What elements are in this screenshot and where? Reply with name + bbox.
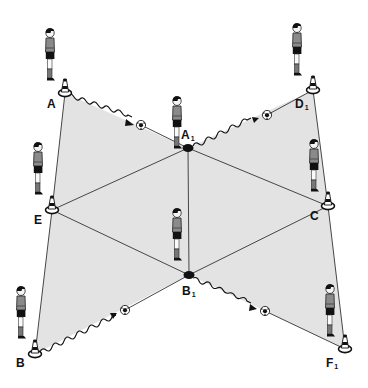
station-label-B: B: [16, 357, 25, 369]
player-icon-D1: [293, 23, 303, 75]
drill-diagram: [0, 0, 368, 388]
marker-dot-A1: [183, 144, 194, 152]
ball-icon: [136, 120, 145, 129]
ball-icon: [262, 110, 271, 119]
station-label-A1: A1: [181, 129, 195, 143]
ball-icon: [260, 306, 269, 315]
cone-icon-A: [59, 79, 72, 97]
station-label-F1: F1: [326, 357, 338, 371]
station-label-D1: D1: [295, 98, 309, 112]
player-icon-E: [34, 142, 44, 194]
marker-dot-B1: [184, 271, 195, 279]
station-label-C: C: [310, 210, 319, 222]
station-label-A: A: [47, 98, 56, 110]
station-label-B1: B1: [182, 285, 196, 299]
ball-icon: [120, 305, 129, 314]
station-label-E: E: [34, 214, 42, 226]
cone-icon-D1: [307, 76, 320, 94]
player-icon-B: [17, 286, 27, 338]
player-icon-A: [46, 28, 56, 80]
arrow-icon: [125, 119, 134, 126]
